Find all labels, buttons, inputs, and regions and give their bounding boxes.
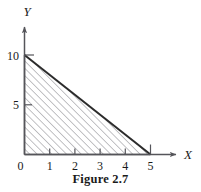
plot-area: 0 1 2 3 4 5 5 10 Y X (0, 0, 201, 192)
y-tick-label-5: 5 (13, 98, 19, 112)
y-axis-label: Y (23, 4, 32, 19)
x-tick-label-5: 5 (148, 159, 154, 173)
x-tick-label-2: 2 (72, 159, 78, 173)
x-tick-label-0: 0 (18, 159, 24, 173)
x-tick-label-3: 3 (97, 159, 103, 173)
x-tick-label-1: 1 (47, 159, 53, 173)
x-axis-label: X (183, 147, 193, 162)
y-tick-label-10: 10 (7, 49, 19, 63)
x-tick-label-4: 4 (122, 159, 128, 173)
figure-caption: Figure 2.7 (0, 172, 201, 187)
figure-container: 0 1 2 3 4 5 5 10 Y X Figure 2.7 (0, 0, 201, 192)
